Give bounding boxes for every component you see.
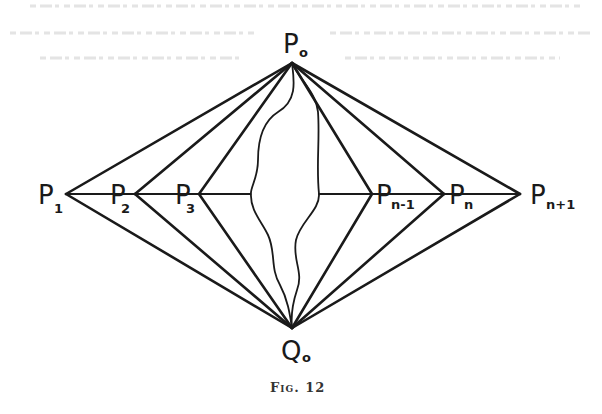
- label-p3-subscript: 3: [186, 201, 195, 216]
- edge-pn+1-to-p0: [292, 63, 520, 194]
- edge-p1-to-p0: [66, 63, 292, 194]
- label-p1-subscript: 1: [54, 201, 63, 216]
- label-p0-subscript: o: [299, 45, 308, 60]
- figure-12-diagram: P o Q o P 1 P 2 P 3 P n-1 P n P n+1 Fig.…: [0, 0, 602, 414]
- labels-group: P o Q o P 1 P 2 P 3 P n-1 P n P n+1 Fig.…: [38, 29, 575, 395]
- label-pn+1-subscript: n+1: [546, 197, 575, 212]
- edge-pn-to-q0: [292, 194, 444, 328]
- label-pn+1: P: [530, 180, 546, 210]
- wavy-curve-left: [251, 63, 294, 328]
- label-q0: Q: [281, 336, 301, 366]
- label-pn-1: P: [376, 180, 392, 210]
- edge-p1-to-q0: [66, 194, 292, 328]
- label-p0: P: [283, 29, 299, 59]
- edge-pn+1-to-q0: [292, 194, 520, 328]
- label-q0-subscript: o: [302, 350, 311, 365]
- label-p1: P: [38, 180, 54, 210]
- figure-caption: Fig. 12: [270, 380, 325, 395]
- label-p2-subscript: 2: [121, 201, 130, 216]
- edge-pn-to-p0: [292, 63, 444, 194]
- label-pn-subscript: n: [464, 197, 473, 212]
- label-pn-1-subscript: n-1: [391, 197, 415, 212]
- label-pn: P: [449, 180, 465, 210]
- edge-pn-1-to-q0: [292, 194, 372, 328]
